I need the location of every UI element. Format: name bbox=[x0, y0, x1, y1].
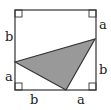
right-angle-marker-top-right bbox=[89, 10, 96, 17]
label-left-bottom: a bbox=[5, 69, 13, 84]
right-angle-marker-top-left bbox=[15, 10, 22, 17]
label-right-top: a bbox=[99, 17, 107, 32]
right-angle-marker-bottom-left bbox=[15, 83, 22, 90]
label-bottom-right: a bbox=[77, 92, 85, 107]
shaded-triangle bbox=[15, 39, 95, 90]
label-right-bottom: b bbox=[99, 62, 107, 77]
label-bottom-left: b bbox=[30, 92, 38, 107]
geometry-diagram: b a a b b a bbox=[0, 0, 111, 110]
label-left-top: b bbox=[5, 29, 13, 44]
right-angle-marker-bottom-right bbox=[89, 83, 96, 90]
